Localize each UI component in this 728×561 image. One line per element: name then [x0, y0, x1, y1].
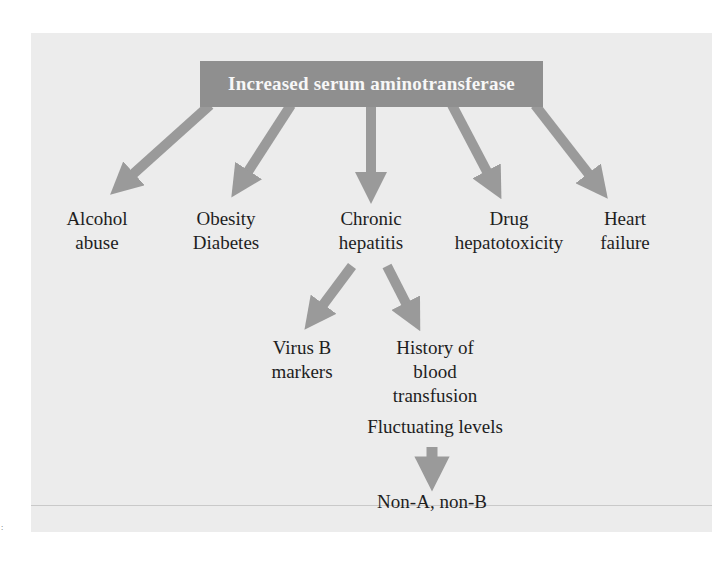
root-node-box: Increased serum aminotransferase: [200, 61, 543, 107]
arrow-to-virus-b: [314, 266, 352, 317]
node-line: abuse: [66, 231, 127, 255]
root-node-label: Increased serum aminotransferase: [228, 73, 515, 95]
node-line: History of: [393, 336, 477, 360]
node-obesity-diabetes: Obesity Diabetes: [193, 207, 259, 255]
node-line: markers: [271, 360, 332, 384]
node-line: Heart: [600, 207, 650, 231]
node-line: Alcohol: [66, 207, 127, 231]
node-virus-b-markers: Virus B markers: [271, 336, 332, 384]
node-line: Diabetes: [193, 231, 259, 255]
arrow-to-alcohol: [122, 105, 210, 184]
node-line: Obesity: [193, 207, 259, 231]
arrow-to-obesity: [240, 105, 291, 184]
arrow-to-heart: [535, 105, 598, 186]
node-chronic-hepatitis: Chronic hepatitis: [339, 207, 403, 255]
node-line: Non-A, non-B: [377, 490, 487, 514]
node-line: failure: [600, 231, 650, 255]
node-line: Virus B: [271, 336, 332, 360]
arrow-to-drug: [452, 105, 494, 185]
arrow-to-transfusion: [387, 266, 413, 317]
node-alcohol-abuse: Alcohol abuse: [66, 207, 127, 255]
node-line: Drug: [455, 207, 564, 231]
node-line: Fluctuating levels: [367, 415, 503, 439]
node-line: blood: [393, 360, 477, 384]
node-non-a-non-b: Non-A, non-B: [377, 490, 487, 514]
node-line: hepatitis: [339, 231, 403, 255]
node-line: Chronic: [339, 207, 403, 231]
node-history-of-blood-transfusion: History of blood transfusion: [393, 336, 477, 408]
node-fluctuating-levels: Fluctuating levels: [367, 415, 503, 439]
node-heart-failure: Heart failure: [600, 207, 650, 255]
node-line: hepatotoxicity: [455, 231, 564, 255]
node-drug-hepatotoxicity: Drug hepatotoxicity: [455, 207, 564, 255]
node-line: transfusion: [393, 384, 477, 408]
